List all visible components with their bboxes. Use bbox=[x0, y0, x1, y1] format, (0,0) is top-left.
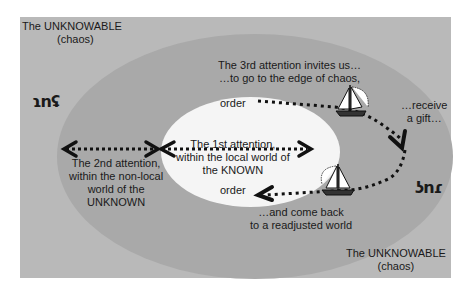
receive-line-1: …receive bbox=[401, 99, 447, 112]
come-back-line-2: to a readjusted world bbox=[250, 219, 352, 232]
order-top-label: order bbox=[220, 97, 246, 110]
receive-gift-label: …receive a gift… bbox=[401, 99, 447, 125]
arrowhead-icon bbox=[161, 142, 174, 156]
unknowable-bottom-label: The UNKNOWABLE (chaos) bbox=[346, 247, 446, 273]
chaos-subtitle: (chaos) bbox=[22, 33, 122, 46]
sailboat-icon-outbound bbox=[336, 85, 368, 116]
glyph-symbol-right: ʖnɾ bbox=[415, 178, 442, 197]
glyph-symbol-left: ɿnʢ bbox=[32, 92, 59, 111]
first-attention-line-2: within the local world of bbox=[176, 151, 290, 164]
come-back-label: …and come back to a readjusted world bbox=[250, 206, 352, 232]
unknowable-title: The UNKNOWABLE bbox=[346, 247, 446, 260]
first-attention-label: The 1st attention, within the local worl… bbox=[176, 138, 290, 177]
third-attention-line-2: …to go to the edge of chaos, bbox=[218, 72, 361, 85]
second-attention-line-2: within the non-local bbox=[69, 170, 163, 183]
come-back-line-1: …and come back bbox=[250, 206, 352, 219]
outbound-path bbox=[258, 101, 402, 140]
first-attention-line-3: the KNOWN bbox=[176, 164, 290, 177]
unknowable-top-label: The UNKNOWABLE (chaos) bbox=[22, 20, 122, 46]
second-attention-line-1: The 2nd attention, bbox=[69, 157, 163, 170]
first-attention-line-1: The 1st attention, bbox=[176, 138, 290, 151]
unknowable-title: The UNKNOWABLE bbox=[22, 20, 122, 33]
chaos-subtitle: (chaos) bbox=[346, 260, 446, 273]
receive-line-2: a gift… bbox=[401, 112, 447, 125]
second-attention-line-3: world of the bbox=[69, 183, 163, 196]
second-attention-label: The 2nd attention, within the non-local … bbox=[69, 157, 163, 209]
second-attention-line-4: UNKNOWN bbox=[69, 196, 163, 209]
third-attention-label: The 3rd attention invites us… …to go to … bbox=[218, 59, 361, 85]
third-attention-line-1: The 3rd attention invites us… bbox=[218, 59, 361, 72]
sailboat-icon-return bbox=[321, 164, 354, 195]
order-bottom-label: order bbox=[220, 184, 246, 197]
